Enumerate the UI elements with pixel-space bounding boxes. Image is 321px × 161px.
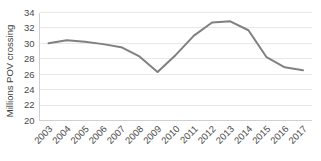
x-tick-label: 2013 [213, 123, 236, 146]
data-series-line [49, 21, 303, 72]
x-tick-label: 2007 [104, 123, 127, 146]
line-chart: 2022242628303234 20032004200520062007200… [0, 0, 321, 161]
y-axis-title-label: Millions POV crossing [4, 25, 15, 117]
y-tick-label: 30 [24, 38, 35, 49]
y-tick-label: 24 [24, 84, 35, 95]
chart-container: 2022242628303234 20032004200520062007200… [0, 0, 321, 161]
x-tick-label: 2015 [250, 123, 273, 146]
x-tick-label: 2006 [86, 123, 109, 146]
series-line [49, 21, 303, 72]
y-tick-label: 26 [24, 69, 35, 80]
y-tick-label: 32 [24, 22, 35, 33]
y-tick-label: 22 [24, 99, 35, 110]
x-tick-label: 2011 [178, 123, 200, 145]
x-tick-label: 2017 [286, 123, 309, 146]
axis-lines [40, 13, 313, 121]
y-tick-label: 28 [24, 53, 35, 64]
y-axis-tick-labels: 2022242628303234 [24, 7, 35, 126]
x-tick-label: 2009 [141, 123, 164, 146]
x-tick-label: 2008 [123, 123, 146, 146]
gridlines [40, 13, 313, 121]
x-axis-tick-labels: 2003200420052006200720082009201020112012… [32, 123, 309, 146]
y-axis-title: Millions POV crossing [4, 25, 15, 117]
x-tick-label: 2010 [159, 123, 182, 146]
y-tick-label: 20 [24, 115, 35, 126]
x-tick-label: 2003 [32, 123, 55, 146]
x-tick-label: 2005 [68, 123, 91, 146]
y-tick-label: 34 [24, 7, 35, 18]
x-tick-label: 2016 [268, 123, 291, 146]
x-tick-label: 2014 [232, 123, 255, 146]
x-tick-label: 2004 [50, 123, 73, 146]
x-tick-label: 2012 [195, 123, 218, 146]
